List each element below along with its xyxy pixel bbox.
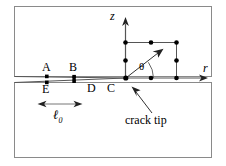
point-label-C: C — [107, 82, 115, 94]
point-label-A: A — [42, 61, 51, 73]
crack-tip-annotation: crack tip — [125, 114, 167, 126]
mesh-node — [149, 40, 154, 45]
l0-subscript: 0 — [58, 116, 62, 125]
point-label-B: B — [69, 61, 77, 73]
mesh-node — [174, 76, 179, 81]
mesh-node — [123, 58, 128, 63]
point-label-E: E — [42, 83, 49, 95]
node-A — [45, 75, 49, 79]
mesh-node — [174, 40, 179, 45]
node-BD-link — [73, 76, 76, 80]
l0-dimension-label: ℓ0 — [53, 108, 62, 125]
z-axis-label: z — [110, 10, 115, 22]
theta-angle-label: θ — [139, 61, 144, 72]
node-C — [123, 75, 128, 80]
figure-container: z r θ A B C D E ℓ0 crack tip — [0, 0, 226, 166]
mesh-node — [123, 40, 128, 45]
r-axis-label: r — [203, 62, 208, 74]
point-label-D: D — [87, 82, 96, 94]
mesh-node — [149, 76, 154, 81]
mesh-node — [174, 58, 179, 63]
